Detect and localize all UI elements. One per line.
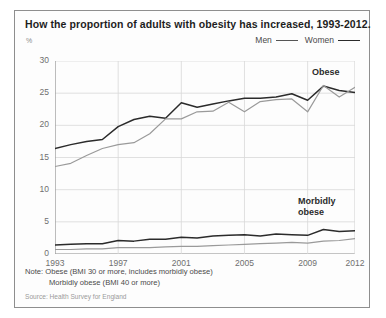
annotation-morbidly-obese: Morbidly obese: [298, 196, 336, 218]
y-tick-0: 0: [27, 248, 49, 258]
note-line-2: Morbidly obese (BMI 40 or more): [25, 278, 213, 289]
legend-item-men: Men: [255, 35, 298, 45]
legend-swatch-women-line: [338, 40, 360, 41]
chart-card: How the proportion of adults with obesit…: [14, 10, 370, 308]
y-tick-10: 10: [27, 184, 49, 194]
chart-notes: Note: Obese (BMI 30 or more, includes mo…: [25, 267, 213, 288]
legend-label-men: Men: [255, 35, 272, 45]
chart-source: Source: Health Survey for England: [25, 293, 127, 300]
x-tick-2012: 2012: [338, 258, 372, 268]
y-tick-15: 15: [27, 152, 49, 162]
plot-area: [55, 61, 355, 254]
x-tick-2005: 2005: [227, 258, 261, 268]
page-title: How the proportion of adults with obesit…: [25, 18, 371, 30]
x-tick-2009: 2009: [291, 258, 325, 268]
annotation-obese: Obese: [312, 67, 340, 78]
y-tick-30: 30: [27, 55, 49, 65]
legend-item-women: Women: [305, 35, 360, 45]
y-tick-5: 5: [27, 216, 49, 226]
legend-swatch-men-line: [276, 40, 298, 41]
y-axis-unit-label: %: [26, 37, 32, 44]
y-tick-20: 20: [27, 119, 49, 129]
legend-label-women: Women: [305, 35, 334, 45]
y-tick-25: 25: [27, 87, 49, 97]
chart-legend: Men Women: [255, 35, 360, 45]
annotation-morbidly-line2: obese: [298, 207, 324, 217]
line-chart-svg: [55, 61, 355, 254]
annotation-morbidly-line1: Morbidly: [298, 196, 336, 206]
note-line-1: Note: Obese (BMI 30 or more, includes mo…: [25, 267, 213, 276]
